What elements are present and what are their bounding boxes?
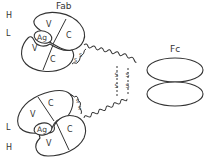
- heavy-chain-label-bottom: H: [6, 143, 12, 152]
- bottom-heavy-c-label: C: [67, 125, 73, 134]
- top-heavy-c-label: C: [66, 31, 72, 40]
- bottom-fab-s2: S: [78, 105, 81, 111]
- top-ag-label: Ag: [37, 33, 47, 42]
- bottom-fab-arm: C V Ag C V S S: [18, 91, 128, 156]
- light-chain-label-bottom: L: [6, 123, 11, 132]
- bottom-heavy-v-label: V: [46, 139, 52, 148]
- top-light-c-label: C: [50, 55, 56, 64]
- hinge-disulfide-bonds: S S S S: [115, 66, 130, 98]
- fc-label: Fc: [170, 44, 180, 54]
- light-chain-label-top: L: [6, 29, 11, 38]
- top-fab-s2: S: [79, 52, 82, 58]
- hinge-right-s1: S: [126, 71, 130, 78]
- hinge-left-s1: S: [115, 71, 119, 78]
- bottom-ag-label: Ag: [37, 125, 47, 134]
- heavy-chain-label-top: H: [6, 11, 12, 20]
- bottom-fab-s1: S: [76, 98, 79, 104]
- bottom-light-v-label: V: [30, 110, 36, 119]
- fc-upper-domain: [147, 58, 203, 82]
- bottom-heavy-hinge-wave: [83, 98, 127, 120]
- fc-region: Fc: [147, 44, 203, 106]
- top-fab-arm: V C Ag V C S S: [22, 12, 138, 71]
- hinge-left-s2: S: [115, 82, 119, 89]
- fab-label: Fab: [56, 1, 72, 11]
- top-fab-s1: S: [74, 57, 77, 63]
- top-heavy-hinge-wave: [83, 44, 138, 63]
- bottom-light-c-label: C: [48, 99, 54, 108]
- hinge-right-s2: S: [126, 82, 130, 89]
- fc-lower-domain: [147, 82, 203, 106]
- top-light-v-label: V: [32, 44, 38, 53]
- top-heavy-v-label: V: [46, 20, 52, 29]
- antibody-diagram: V C Ag V C S S C V Ag C V S S: [0, 0, 206, 162]
